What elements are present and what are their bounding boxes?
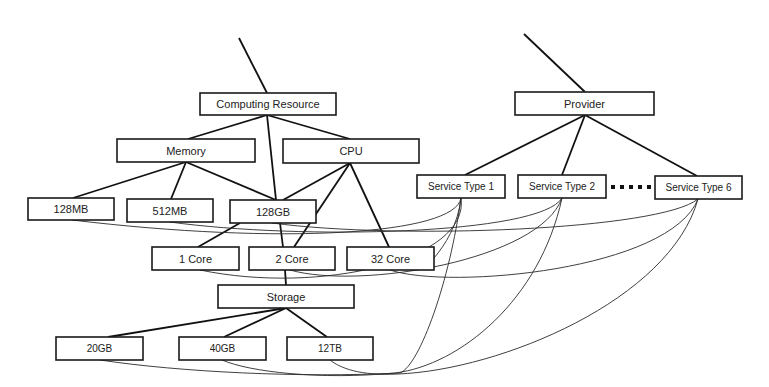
- node-2-core: 2 Core: [249, 247, 335, 270]
- curve-st6-128gb: [272, 199, 698, 231]
- node-12tb: 12TB: [287, 337, 373, 360]
- node-512mb: 512MB: [127, 199, 213, 222]
- edge-cpu-32core: [350, 163, 389, 247]
- edge-memory-512mb: [171, 162, 186, 199]
- node-label: 32 Core: [371, 253, 410, 265]
- node-label: Storage: [267, 291, 306, 303]
- node-service-type-1: Service Type 1: [417, 175, 505, 198]
- ellipsis-dots: [611, 185, 651, 189]
- association-curves: [72, 198, 698, 376]
- node-label: 128GB: [256, 206, 290, 218]
- node-128mb: 128MB: [28, 198, 114, 220]
- node-service-type-6: Service Type 6: [655, 176, 742, 199]
- node-label: Service Type 6: [666, 182, 732, 193]
- node-label: 128MB: [54, 203, 89, 215]
- edge-provider-st6: [585, 115, 697, 176]
- node-label: 12TB: [318, 343, 342, 354]
- node-memory: Memory: [117, 139, 255, 162]
- node-computing-resource: Computing Resource: [200, 93, 336, 115]
- node-cpu: CPU: [283, 139, 419, 163]
- node-label: Provider: [564, 98, 605, 110]
- node-40gb: 40GB: [179, 337, 266, 360]
- edge-into-provider: [524, 34, 585, 92]
- edge-128gb-1core: [198, 223, 240, 247]
- edge-computing-128gb: [267, 115, 276, 200]
- curve-st6-12tb: [330, 199, 698, 374]
- node-label: 20GB: [87, 343, 113, 354]
- node-128gb: 128GB: [230, 200, 316, 223]
- node-storage: Storage: [218, 285, 354, 308]
- node-32-core: 32 Core: [347, 247, 434, 270]
- edge-2core-storage: [285, 270, 286, 285]
- node-label: 1 Core: [179, 253, 212, 265]
- node-1-core: 1 Core: [152, 247, 239, 270]
- edge-storage-12tb: [286, 308, 327, 337]
- node-label: Computing Resource: [216, 98, 319, 110]
- edge-memory-128gb: [186, 162, 276, 200]
- node-label: Service Type 2: [529, 181, 595, 192]
- node-label: 40GB: [210, 343, 236, 354]
- edge-into-computing-resource: [239, 38, 267, 93]
- edge-computing-cpu: [267, 115, 350, 139]
- node-label: 2 Core: [275, 253, 308, 265]
- node-service-type-2: Service Type 2: [518, 175, 606, 198]
- edge-provider-st1: [465, 115, 585, 175]
- node-label: Service Type 1: [428, 181, 494, 192]
- edge-memory-128mb: [73, 162, 186, 198]
- curve-st2-512mb: [170, 198, 562, 232]
- node-label: Memory: [166, 145, 206, 157]
- node-provider: Provider: [515, 92, 654, 115]
- edge-128gb-2core: [280, 223, 283, 247]
- node-label: 512MB: [153, 205, 188, 217]
- node-20gb: 20GB: [56, 337, 143, 360]
- node-label: CPU: [339, 145, 362, 157]
- edge-cpu-128gb: [283, 163, 350, 200]
- edge-storage-20gb: [108, 308, 286, 337]
- edge-computing-memory: [188, 115, 267, 139]
- incoming-edges: [239, 34, 585, 93]
- resource-provider-hierarchy-diagram: Computing Resource Memory CPU 128MB 512M…: [0, 0, 769, 387]
